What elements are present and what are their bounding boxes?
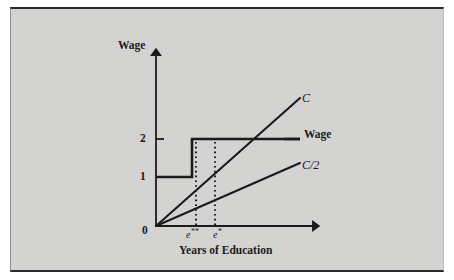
x-tick-label-e-star: e*	[213, 228, 222, 240]
origin-label: 0	[142, 225, 148, 237]
curve-label-c-half: C/2	[302, 159, 319, 171]
curve-c-half-line	[156, 163, 300, 226]
y-tick-label-2: 2	[140, 133, 146, 145]
x-tick-e-superscript: *	[217, 227, 221, 236]
figure-root: Wage 2 1 0 e** e* Years of Education C W…	[0, 0, 454, 280]
curve-wage-step	[156, 139, 300, 177]
curve-label-wage: Wage	[304, 129, 331, 141]
curve-c-line	[156, 98, 300, 226]
x-axis-title: Years of Education	[179, 245, 272, 257]
signaling-equilibrium-plot	[0, 0, 454, 280]
x-tick-label-e-star-star: e**	[186, 228, 199, 240]
y-tick-label-1: 1	[140, 171, 146, 183]
x-tick-e-superscript: **	[190, 227, 198, 236]
y-axis-title: Wage	[118, 40, 145, 52]
curve-label-c: C	[302, 92, 310, 104]
